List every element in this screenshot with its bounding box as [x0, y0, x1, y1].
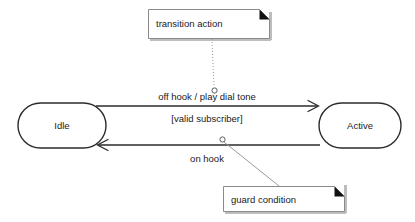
note-guard-condition-label: guard condition	[231, 194, 296, 205]
note-guard-condition[interactable]: guard condition	[224, 185, 348, 214]
transition-active-to-idle[interactable]	[98, 140, 321, 151]
note-guard-condition-fold-icon	[335, 187, 345, 197]
leader-line-guard-condition	[224, 142, 279, 186]
anchor-point-guard-condition	[220, 137, 225, 142]
transition-idle-to-active[interactable]	[96, 101, 319, 112]
transition-label-event-action: off hook / play dial tone	[158, 91, 256, 102]
state-diagram-canvas: transition action Idle Active off hook /…	[0, 0, 415, 222]
state-active[interactable]: Active	[319, 103, 401, 148]
note-transition-action-label: transition action	[156, 18, 223, 29]
note-transition-action-fold-icon	[260, 10, 270, 20]
state-idle[interactable]: Idle	[18, 103, 106, 148]
state-active-label: Active	[347, 120, 373, 131]
leader-line-transition-action	[212, 39, 214, 87]
transition-label-guard: [valid subscriber]	[171, 113, 242, 124]
transition-label-on-hook: on hook	[190, 153, 224, 164]
diagram-svg: transition action Idle Active off hook /…	[0, 0, 415, 222]
state-idle-label: Idle	[54, 120, 69, 131]
note-transition-action[interactable]: transition action	[149, 10, 273, 42]
